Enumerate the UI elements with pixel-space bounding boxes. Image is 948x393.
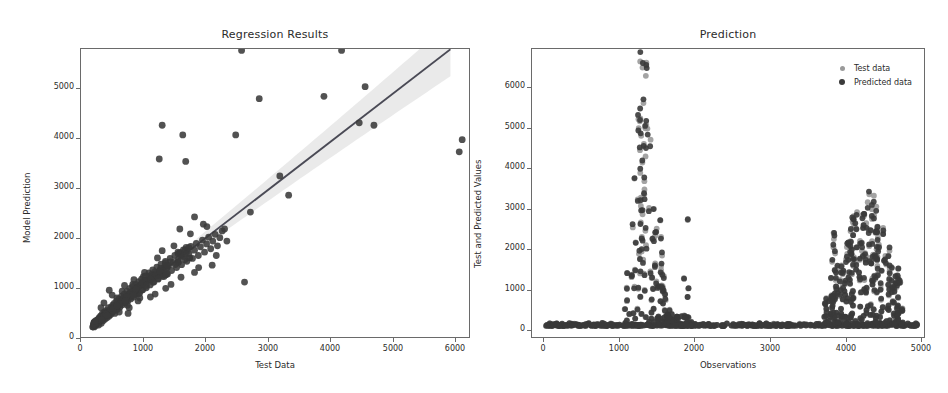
x-tick-3000-right: 3000 — [752, 344, 788, 353]
x-tickmark-right — [694, 338, 695, 342]
y-tick-3000-right: 3000 — [499, 203, 525, 212]
x-axis-label-prediction: Observations — [531, 360, 925, 370]
x-tick-2000-left: 2000 — [187, 344, 223, 353]
x-tickmark-right — [921, 338, 922, 342]
x-tickmark-left — [80, 338, 81, 342]
scatter-canvas-regression — [81, 49, 470, 338]
y-tick-2000-right: 2000 — [499, 243, 525, 252]
x-tickmark-left — [393, 338, 394, 342]
x-tick-1000-right: 1000 — [601, 344, 637, 353]
y-axis-label-prediction: Test and Predicted Values — [473, 159, 483, 268]
y-tick-1000-right: 1000 — [499, 284, 525, 293]
legend-item-test-data[interactable]: Test data — [838, 61, 912, 75]
x-tick-5000-right: 5000 — [903, 344, 939, 353]
x-tickmark-right — [619, 338, 620, 342]
chart-title-regression: Regression Results — [80, 28, 470, 41]
x-tickmark-left — [268, 338, 269, 342]
y-tick-4000-left: 4000 — [48, 132, 74, 141]
x-tickmark-left — [455, 338, 456, 342]
x-tick-0-right: 0 — [525, 344, 561, 353]
chart-title-prediction: Prediction — [531, 28, 925, 41]
legend-prediction: Test data Predicted data — [838, 61, 912, 89]
y-tick-0-right: 0 — [499, 324, 525, 333]
y-tick-2000-left: 2000 — [48, 232, 74, 241]
y-tick-1000-left: 1000 — [48, 282, 74, 291]
y-tick-3000-left: 3000 — [48, 182, 74, 191]
x-tickmark-left — [205, 338, 206, 342]
legend-label-test-data: Test data — [854, 64, 890, 73]
y-tick-5000-left: 5000 — [48, 82, 74, 91]
legend-label-predicted-data: Predicted data — [854, 78, 912, 87]
x-tick-4000-left: 4000 — [312, 344, 348, 353]
y-tick-0-left: 0 — [48, 332, 74, 341]
y-tick-4000-right: 4000 — [499, 162, 525, 171]
legend-marker-test-data — [840, 66, 845, 71]
x-tick-6000-left: 6000 — [437, 344, 473, 353]
panel-prediction: Prediction Test and Predicted Values 0 1… — [531, 48, 925, 338]
x-axis-label-regression: Test Data — [80, 360, 470, 370]
x-tick-5000-left: 5000 — [375, 344, 411, 353]
figure-canvas: Regression Results Model Prediction 0 10… — [0, 0, 948, 393]
x-tick-4000-right: 4000 — [828, 344, 864, 353]
legend-item-predicted-data[interactable]: Predicted data — [838, 75, 912, 89]
x-tickmark-left — [330, 338, 331, 342]
plot-area-prediction: Test data Predicted data — [531, 48, 925, 338]
x-tick-0-left: 0 — [62, 344, 98, 353]
x-tick-1000-left: 1000 — [125, 344, 161, 353]
x-tickmark-right — [846, 338, 847, 342]
y-axis-label-regression: Model Prediction — [22, 173, 32, 243]
scatter-canvas-prediction — [532, 49, 925, 338]
x-tick-3000-left: 3000 — [250, 344, 286, 353]
x-tickmark-left — [143, 338, 144, 342]
x-tickmark-right — [770, 338, 771, 342]
plot-area-regression — [80, 48, 470, 338]
y-tick-5000-right: 5000 — [499, 122, 525, 131]
panel-regression-results: Regression Results Model Prediction 0 10… — [80, 48, 470, 338]
y-tick-6000-right: 6000 — [499, 81, 525, 90]
legend-marker-predicted-data — [839, 79, 845, 85]
x-tickmark-right — [543, 338, 544, 342]
x-tick-2000-right: 2000 — [676, 344, 712, 353]
